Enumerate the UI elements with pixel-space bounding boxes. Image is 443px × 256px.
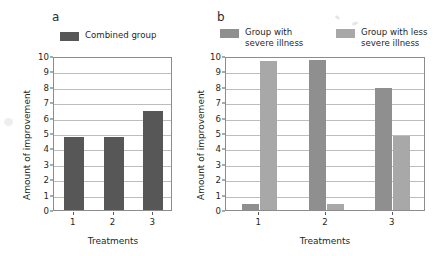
panel-a-letter: a	[52, 10, 60, 24]
x-axis-tick-mark	[392, 212, 393, 215]
panel-b-bars	[226, 58, 424, 210]
x-axis-tick-label: 1	[245, 217, 271, 227]
y-axis-tick-label: 5	[205, 129, 221, 139]
y-axis-tick-mark	[222, 211, 225, 212]
y-axis-tick-mark	[222, 134, 225, 135]
y-axis-tick-mark	[50, 57, 53, 58]
y-axis-tick-label: 6	[205, 114, 221, 124]
bar	[104, 137, 124, 210]
x-axis-tick-label: 3	[139, 217, 165, 227]
y-axis-tick-label: 8	[205, 83, 221, 93]
y-axis-tick-label: 2	[33, 175, 49, 185]
legend-label-less-severe-illness: Group with less severe illness	[361, 27, 428, 48]
y-axis-tick-mark	[50, 134, 53, 135]
bar	[64, 137, 84, 210]
panel-b: b Group with severe illness Group with l…	[196, 0, 443, 256]
x-axis-tick-mark	[325, 212, 326, 215]
legend-swatch-combined-group	[60, 32, 79, 41]
y-axis-tick-mark	[222, 149, 225, 150]
x-axis-tick-mark	[73, 212, 74, 215]
y-axis-tick-mark	[222, 72, 225, 73]
panel-a: a Combined group Amount of improvement T…	[0, 0, 200, 256]
y-axis-tick-mark	[222, 118, 225, 119]
legend-swatch-less-severe-illness	[336, 29, 355, 38]
y-axis-tick-label: 2	[205, 175, 221, 185]
y-axis-tick-mark	[222, 103, 225, 104]
y-axis-tick-label: 10	[33, 52, 49, 62]
y-axis-tick-mark	[50, 103, 53, 104]
legend-label-severe-illness: Group with severe illness	[245, 27, 303, 48]
y-axis-tick-label: 1	[205, 191, 221, 201]
legend-group-less-severe-illness: Group with less severe illness	[336, 27, 428, 48]
panel-b-plot-area	[225, 57, 425, 211]
panel-a-x-axis-label: Treatments	[88, 236, 138, 246]
x-axis-tick-mark	[152, 212, 153, 215]
y-axis-tick-label: 8	[33, 83, 49, 93]
panel-a-y-axis-label: Amount of improvement	[22, 90, 32, 200]
y-axis-tick-label: 9	[205, 67, 221, 77]
two-panel-bar-chart-figure: a Combined group Amount of improvement T…	[0, 0, 443, 256]
bar	[327, 204, 344, 210]
panel-b-x-axis-label: Treatments	[300, 236, 350, 246]
bar	[242, 204, 259, 210]
bar	[393, 136, 410, 210]
y-axis-tick-label: 10	[205, 52, 221, 62]
y-axis-tick-label: 7	[33, 98, 49, 108]
bar	[260, 61, 277, 210]
y-axis-tick-label: 6	[33, 114, 49, 124]
y-axis-tick-mark	[222, 57, 225, 58]
y-axis-tick-mark	[222, 87, 225, 88]
y-axis-tick-label: 0	[205, 206, 221, 216]
y-axis-tick-mark	[50, 180, 53, 181]
y-axis-tick-mark	[50, 118, 53, 119]
legend-swatch-severe-illness	[220, 29, 239, 38]
bar	[309, 60, 326, 210]
bar	[375, 88, 392, 210]
y-axis-tick-label: 3	[33, 160, 49, 170]
y-axis-tick-label: 5	[33, 129, 49, 139]
scan-artifact	[4, 118, 13, 126]
y-axis-tick-mark	[222, 164, 225, 165]
y-axis-tick-label: 1	[33, 191, 49, 201]
y-axis-tick-mark	[50, 72, 53, 73]
bar	[143, 111, 163, 210]
y-axis-tick-mark	[50, 211, 53, 212]
panel-b-letter: b	[217, 10, 225, 24]
x-axis-tick-label: 1	[60, 217, 86, 227]
y-axis-tick-mark	[50, 149, 53, 150]
y-axis-tick-label: 9	[33, 67, 49, 77]
y-axis-tick-label: 3	[205, 160, 221, 170]
y-axis-tick-mark	[222, 195, 225, 196]
y-axis-tick-label: 7	[205, 98, 221, 108]
x-axis-tick-mark	[258, 212, 259, 215]
y-axis-tick-mark	[50, 87, 53, 88]
x-axis-tick-label: 2	[100, 217, 126, 227]
y-axis-tick-label: 0	[33, 206, 49, 216]
y-axis-tick-mark	[50, 195, 53, 196]
legend-combined-group: Combined group	[60, 30, 156, 41]
panel-a-bars	[54, 58, 171, 210]
x-axis-tick-mark	[113, 212, 114, 215]
panel-a-plot-area	[53, 57, 172, 211]
legend-label-combined-group: Combined group	[85, 30, 156, 41]
y-axis-tick-mark	[50, 164, 53, 165]
x-axis-tick-label: 2	[312, 217, 338, 227]
y-axis-tick-mark	[222, 180, 225, 181]
legend-group-severe-illness: Group with severe illness	[220, 27, 303, 48]
y-axis-tick-label: 4	[33, 144, 49, 154]
y-axis-tick-label: 4	[205, 144, 221, 154]
x-axis-tick-label: 3	[379, 217, 405, 227]
